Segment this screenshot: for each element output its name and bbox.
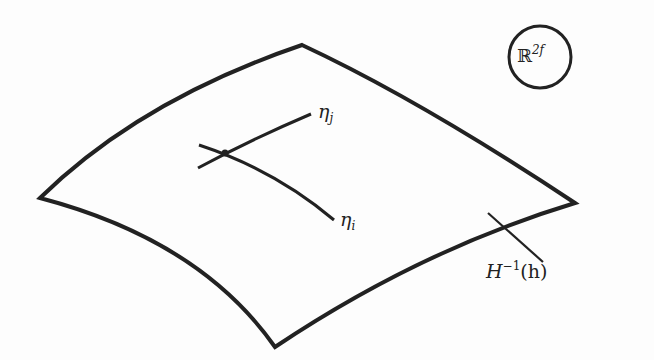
- label-surface: H−1(h): [486, 260, 547, 281]
- curve-eta-j: [198, 114, 311, 168]
- space-label: ℝ2f: [517, 44, 544, 65]
- surface-label-leader: [488, 213, 543, 262]
- label-eta-i-sub: i: [351, 219, 355, 233]
- label-surface-exponent: −1: [503, 259, 521, 273]
- space-label-base: ℝ: [517, 45, 532, 66]
- label-eta-i: ηi: [340, 210, 355, 232]
- intersection-point: [222, 150, 229, 157]
- label-surface-argument: (h): [520, 260, 547, 282]
- label-eta-j: ηj: [318, 102, 333, 124]
- label-eta-j-base: η: [318, 100, 329, 122]
- level-surface-boundary: [40, 45, 575, 347]
- label-surface-base: H: [486, 260, 503, 282]
- surface-drawing: [0, 0, 654, 360]
- space-label-exponent: 2f: [532, 43, 544, 57]
- diagram-canvas: ℝ2f ηj ηi H−1(h): [0, 0, 654, 360]
- label-eta-j-sub: j: [329, 111, 333, 125]
- label-eta-i-base: η: [340, 208, 351, 230]
